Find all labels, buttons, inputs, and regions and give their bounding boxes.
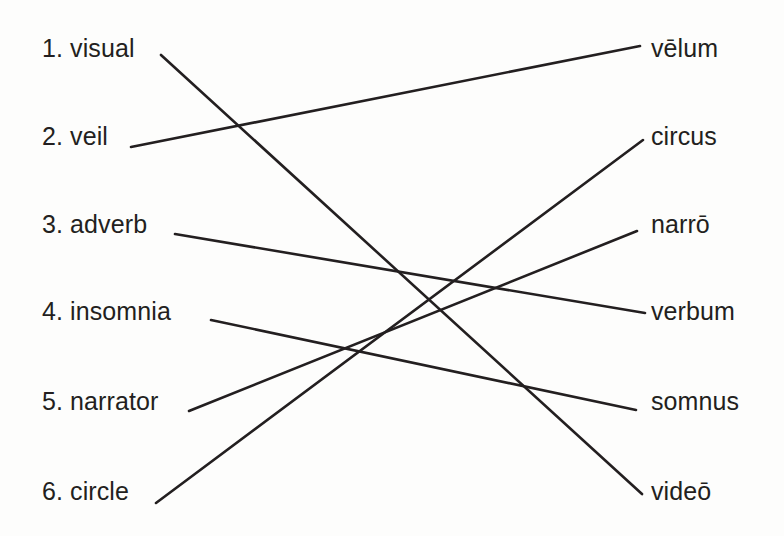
right-item-narro[interactable]: narrō [651,212,710,237]
left-item-1[interactable]: 1. visual [42,36,135,61]
left-item-2[interactable]: 2. veil [42,124,108,149]
right-item-verbum[interactable]: verbum [651,299,735,324]
right-item-somnus[interactable]: somnus [651,389,739,414]
left-item-5[interactable]: 5. narrator [42,389,158,414]
right-item-video[interactable]: videō [651,479,711,504]
left-item-3[interactable]: 3. adverb [42,212,147,237]
left-item-6[interactable]: 6. circle [42,479,129,504]
connection-line-narrator-to-narrō[interactable] [189,231,637,411]
left-item-4[interactable]: 4. insomnia [42,299,171,324]
matching-exercise-worksheet: 1. visual 2. veil 3. adverb 4. insomnia … [0,0,784,536]
connection-line-veil-to-vēlum[interactable] [131,46,640,147]
connection-line-insomnia-to-somnus[interactable] [211,320,636,410]
connection-line-adverb-to-verbum[interactable] [175,234,645,313]
right-item-velum[interactable]: vēlum [651,36,718,61]
connection-line-circle-to-circus[interactable] [156,140,643,503]
connection-line-visual-to-videō[interactable] [161,55,642,494]
right-item-circus[interactable]: circus [651,124,717,149]
connection-lines-layer [0,0,784,536]
